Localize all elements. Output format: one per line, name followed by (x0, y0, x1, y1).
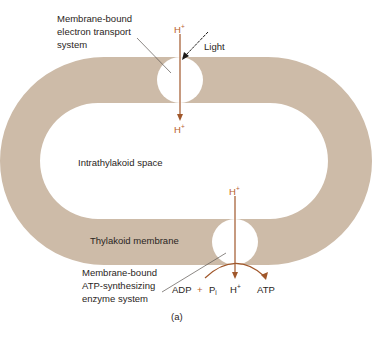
thylakoid-diagram: Membrane-bound electron transport system… (0, 0, 374, 347)
atp-synthase-label-3: enzyme system (82, 293, 148, 304)
plus-sign: + (197, 284, 203, 295)
intrathylakoid-space-label: Intrathylakoid space (78, 157, 163, 168)
light-label: Light (204, 41, 225, 52)
proton-charge: + (181, 23, 185, 30)
thylakoid-membrane-label: Thylakoid membrane (90, 235, 179, 246)
adp-to-atp-arrowhead (261, 272, 268, 280)
bottom-proton-arrowhead (232, 272, 238, 279)
phosphate-subscript: i (215, 289, 216, 296)
bottom-proton-in-label: H+ (229, 185, 240, 197)
figure-caption: (a) (171, 311, 183, 322)
top-proton-out-label: H+ (174, 123, 185, 135)
top-proton-arrowhead (177, 114, 183, 121)
bottom-proton-out-label: H+ (230, 283, 241, 295)
top-proton-in-label: H+ (174, 23, 185, 35)
proton-charge: + (181, 123, 185, 130)
atp-label: ATP (257, 284, 275, 295)
atp-synthase-label-1: Membrane-bound (82, 267, 157, 278)
proton-charge: + (236, 185, 240, 192)
adp-label: ADP (172, 284, 192, 295)
atp-synthase-label-2: ATP-synthesizing (82, 280, 155, 291)
proton-charge: + (237, 283, 241, 290)
pi-label: Pi (209, 284, 217, 296)
electron-transport-label-3: system (57, 39, 87, 50)
electron-transport-label-1: Membrane-bound (57, 13, 132, 24)
electron-transport-label-2: electron transport (57, 26, 131, 37)
